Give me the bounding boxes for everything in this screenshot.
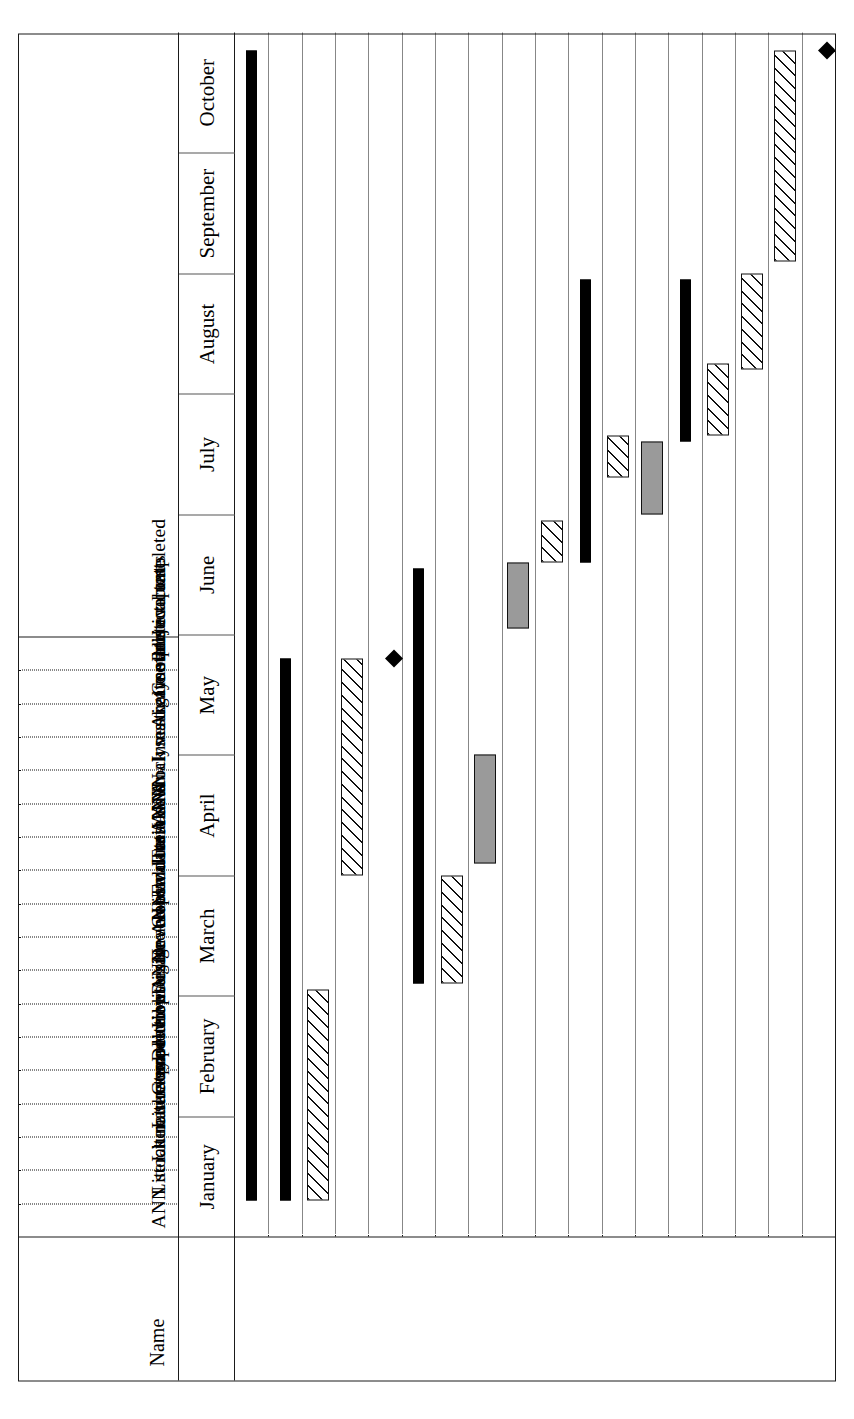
- task-name-cell[interactable]: Literature review: [19, 1103, 179, 1136]
- plot-band: [235, 32, 835, 1380]
- row-gridline: [768, 32, 769, 1236]
- task-name-cell[interactable]: Use stock market models: [19, 803, 179, 836]
- row-gridline: [635, 32, 636, 1236]
- month-label-june: June: [179, 514, 235, 634]
- row-gridline: [468, 32, 469, 1236]
- task-name-cell[interactable]: Investigate statistical tests: [19, 736, 179, 769]
- month-header-gutter: [179, 1236, 235, 1380]
- task-bar-hatched[interactable]: [307, 989, 329, 1200]
- name-column-header: Name: [19, 1236, 179, 1380]
- month-label-march: March: [179, 875, 235, 995]
- row-gridline: [368, 32, 369, 1236]
- task-bar-filled[interactable]: [474, 754, 496, 862]
- row-gridline: [268, 32, 269, 1236]
- row-gridline: [435, 32, 436, 1236]
- row-gridline: [668, 32, 669, 1236]
- task-bar-filled[interactable]: [507, 562, 529, 628]
- row-gridline: [302, 32, 303, 1236]
- summary-bar[interactable]: [413, 568, 424, 983]
- month-label-text: January: [195, 1144, 220, 1209]
- plot-gutter: [235, 1236, 835, 1380]
- task-bar-hatched[interactable]: [774, 50, 796, 261]
- task-name-cell[interactable]: Literature search: [19, 1136, 179, 1169]
- month-label-text: February: [195, 1018, 220, 1094]
- row-gridline: [502, 32, 503, 1236]
- month-label-january: January: [179, 1116, 235, 1236]
- summary-bar[interactable]: [680, 279, 691, 442]
- task-name-cell[interactable]: Develop and test ANN: [19, 936, 179, 969]
- summary-bar[interactable]: [280, 658, 291, 1200]
- task-name-cell[interactable]: Investigate and evaluate ANNs: [19, 1003, 179, 1036]
- month-label-text: March: [195, 908, 220, 963]
- row-gridline: [802, 32, 803, 1236]
- month-label-october: October: [179, 32, 235, 152]
- month-label-april: April: [179, 754, 235, 874]
- month-label-text: April: [195, 793, 220, 837]
- row-gridline: [702, 32, 703, 1236]
- name-header-label: Name: [146, 1318, 179, 1380]
- task-name-cell[interactable]: Analyse and evaluate: [19, 703, 179, 736]
- row-gridline: [602, 32, 603, 1236]
- task-name-cell[interactable]: Get stock test data: [19, 903, 179, 936]
- month-label-text: July: [195, 436, 220, 471]
- month-label-text: May: [195, 675, 220, 714]
- task-name-cell[interactable]: Evaluation: [19, 869, 179, 902]
- month-label-february: February: [179, 995, 235, 1115]
- task-bar-hatched[interactable]: [341, 658, 363, 875]
- month-label-text: September: [195, 168, 220, 258]
- task-bar-hatched[interactable]: [741, 273, 763, 369]
- task-name-cell[interactable]: ANN stock market prediction: [19, 1203, 179, 1236]
- month-label-july: July: [179, 393, 235, 513]
- row-gridline: [335, 32, 336, 1236]
- row-gridline: [735, 32, 736, 1236]
- row-gridline: [568, 32, 569, 1236]
- task-name-cell[interactable]: Project completed: [19, 636, 179, 669]
- rotated-canvas: Name ANN stock market predictionLiteratu…: [0, 0, 854, 1419]
- task-name-cell[interactable]: Literature survey: [19, 1169, 179, 1202]
- month-header-band: JanuaryFebruaryMarchAprilMayJuneJulyAugu…: [179, 32, 235, 1380]
- task-bar-filled[interactable]: [641, 441, 663, 513]
- task-name-cell[interactable]: Develop ANN: [19, 1036, 179, 1069]
- gantt-chart: Name ANN stock market predictionLiteratu…: [0, 0, 854, 1419]
- task-bar-hatched[interactable]: [707, 363, 729, 435]
- month-label-text: August: [195, 303, 220, 364]
- month-label-may: May: [179, 634, 235, 754]
- task-bar-hatched[interactable]: [607, 435, 629, 477]
- task-bar-hatched[interactable]: [441, 875, 463, 983]
- month-label-list: JanuaryFebruaryMarchAprilMayJuneJulyAugu…: [179, 32, 235, 1236]
- row-gridline: [535, 32, 536, 1236]
- row-gridline: [402, 32, 403, 1236]
- month-label-september: September: [179, 152, 235, 272]
- task-name-band: Name ANN stock market predictionLiteratu…: [19, 32, 179, 1380]
- month-label-text: June: [195, 555, 220, 594]
- month-label-august: August: [179, 273, 235, 393]
- task-name-cell[interactable]: Train ANN: [19, 836, 179, 869]
- task-name-cell[interactable]: Design ANN: [19, 969, 179, 1002]
- milestone-diamond[interactable]: [376, 649, 394, 667]
- task-name-cell[interactable]: Analyses: [19, 769, 179, 802]
- task-name-label: Project completed: [148, 518, 179, 669]
- task-name-cell[interactable]: Complete report: [19, 669, 179, 702]
- chart-frame: Name ANN stock market predictionLiteratu…: [18, 33, 836, 1381]
- summary-bar[interactable]: [246, 50, 257, 1200]
- gantt-chart-page: Name ANN stock market predictionLiteratu…: [0, 0, 854, 1419]
- milestone-diamond[interactable]: [809, 41, 827, 59]
- summary-bar[interactable]: [580, 279, 591, 562]
- task-name-cell[interactable]: Completed literature review: [19, 1069, 179, 1102]
- task-name-list: ANN stock market predictionLiterature su…: [19, 32, 179, 1236]
- month-label-text: October: [195, 58, 220, 126]
- bar-canvas: [235, 32, 835, 1236]
- task-bar-hatched[interactable]: [541, 520, 563, 562]
